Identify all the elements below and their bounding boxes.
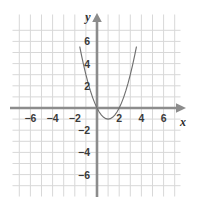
y-tick-label: −4 [78, 146, 90, 158]
x-tick-label: 6 [161, 112, 167, 124]
plot-area: −6−4−2246 642−2−4−6 x y [0, 0, 200, 207]
x-tick-label: −2 [69, 112, 81, 124]
x-tick-label: 2 [116, 112, 122, 124]
y-tick-label: −6 [78, 169, 90, 181]
x-tick-label: −4 [47, 112, 59, 124]
y-tick-label: 2 [84, 80, 90, 92]
y-tick-label: −2 [78, 124, 90, 136]
y-tick-label: 4 [84, 58, 90, 70]
coordinate-graph: −6−4−2246 642−2−4−6 x y [0, 0, 200, 207]
y-axis-label: y [83, 10, 91, 24]
y-tick-label: 6 [84, 35, 90, 47]
x-tick-label: 4 [138, 112, 144, 124]
x-tick-label: −6 [24, 112, 36, 124]
x-axis-label: x [179, 115, 186, 129]
